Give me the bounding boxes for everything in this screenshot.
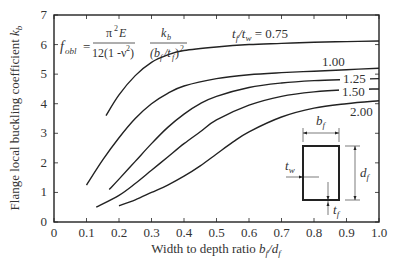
svg-text:obl: obl xyxy=(65,46,77,56)
y-tick-label: 7 xyxy=(41,7,48,22)
svg-text:tw: tw xyxy=(285,158,295,175)
label-1.00: 1.00 xyxy=(322,54,345,69)
y-tick-label: 3 xyxy=(41,125,48,140)
svg-text:): ) xyxy=(130,46,134,60)
curve-1.50 xyxy=(96,89,379,207)
cross-section-inset xyxy=(286,128,360,215)
label-2.00: 2.00 xyxy=(350,104,373,119)
svg-text:E: E xyxy=(118,26,127,40)
y-tick-label: 4 xyxy=(41,96,48,111)
y-tick-label: 5 xyxy=(41,66,48,81)
svg-text:12(1 -ν: 12(1 -ν xyxy=(92,46,127,60)
curve-labels: tf/tw = 0.751.001.251.502.00 xyxy=(232,26,373,119)
y-axis-label: Flange local buckling coefficient kb xyxy=(7,25,24,210)
svg-text:2: 2 xyxy=(114,24,118,33)
x-tick-label: 0.7 xyxy=(273,225,290,240)
svg-text:π: π xyxy=(106,26,112,40)
y-tick-label: 0 xyxy=(41,214,48,229)
x-tick-label: 0.3 xyxy=(143,225,159,240)
svg-text:/t: /t xyxy=(163,46,171,60)
svg-text:tf: tf xyxy=(333,202,341,219)
x-tick-label: 0.8 xyxy=(306,225,322,240)
x-tick-label: 0.2 xyxy=(111,225,127,240)
chart: 00.10.20.30.40.50.60.70.80.91.001234567 … xyxy=(0,0,396,266)
svg-text:): ) xyxy=(175,46,179,60)
x-tick-label: 0.6 xyxy=(241,225,258,240)
y-tick-label: 1 xyxy=(41,184,48,199)
x-axis-label: Width to depth ratio bf/df xyxy=(151,241,282,258)
svg-text:bf: bf xyxy=(316,113,327,130)
label-0.75: tf/tw = 0.75 xyxy=(232,26,288,43)
svg-text:(b: (b xyxy=(150,46,160,60)
x-tick-label: 0.9 xyxy=(338,225,354,240)
svg-text:2: 2 xyxy=(180,44,184,53)
svg-text:df: df xyxy=(360,165,371,182)
svg-text:=: = xyxy=(83,39,90,54)
svg-text:b: b xyxy=(167,33,171,42)
formula: f obl = π 2 E 12(1 -ν 2 ) k b (b f /t f … xyxy=(60,24,187,62)
label-1.50: 1.50 xyxy=(342,84,365,99)
x-tick-label: 0 xyxy=(51,225,58,240)
x-tick-label: 0.5 xyxy=(208,225,224,240)
y-tick-label: 6 xyxy=(41,37,48,52)
x-tick-label: 1.0 xyxy=(371,225,387,240)
y-tick-label: 2 xyxy=(41,155,48,170)
x-tick-label: 0.1 xyxy=(78,225,94,240)
x-tick-label: 0.4 xyxy=(176,225,193,240)
